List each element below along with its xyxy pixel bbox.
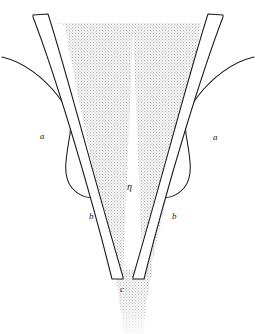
label-a-right: a xyxy=(213,133,218,142)
label-b-left: b xyxy=(89,212,94,221)
label-c-bottom: c xyxy=(120,285,124,294)
label-eta-center: η xyxy=(127,182,132,191)
anatomical-diagram xyxy=(0,0,256,334)
stipple-funnel-left xyxy=(55,23,133,278)
label-a-left: a xyxy=(40,132,45,141)
label-b-right: b xyxy=(172,212,177,221)
figure-container: a a b b η c xyxy=(0,0,256,334)
central-shaded-region xyxy=(55,23,201,334)
